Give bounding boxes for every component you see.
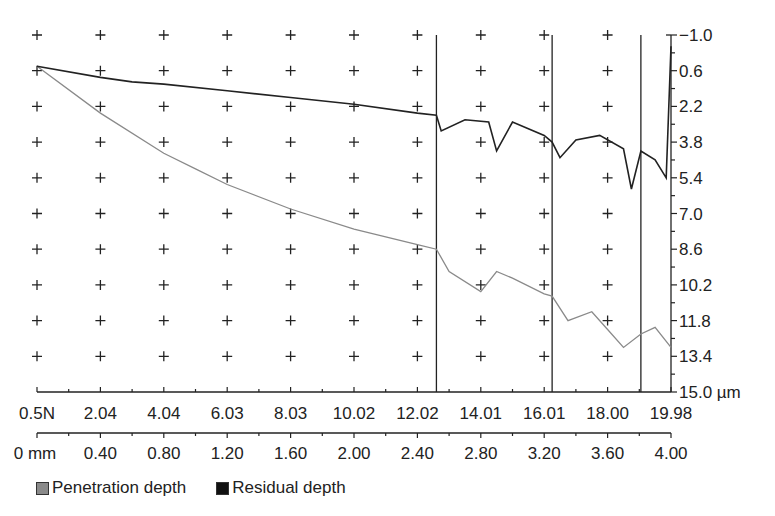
y-tick-label: 2.2: [679, 97, 703, 116]
y-tick-label: 8.6: [679, 240, 703, 259]
x-distance-tick-label: 3.20: [528, 444, 561, 463]
x-distance-tick-label: 0 mm: [14, 444, 57, 463]
y-tick-label: 15.0 µm: [679, 383, 741, 402]
x-distance-tick-label: 4.00: [654, 444, 687, 463]
x-load-tick-label: 4.04: [147, 404, 180, 423]
x-distance-tick-label: 2.00: [337, 444, 370, 463]
legend: Penetration depth Residual depth: [36, 478, 346, 498]
x-distance-tick-label: 3.60: [591, 444, 624, 463]
legend-item-penetration: Penetration depth: [36, 478, 186, 498]
x-load-tick-label: 12.02: [396, 404, 439, 423]
x-distance-tick-label: 1.20: [211, 444, 244, 463]
legend-item-residual: Residual depth: [216, 478, 345, 498]
y-tick-label: −1.0: [679, 26, 713, 45]
legend-swatch-icon: [36, 482, 49, 495]
x-load-tick-label: 2.04: [84, 404, 117, 423]
y-tick-label: 0.6: [679, 62, 703, 81]
x-distance-tick-label: 0.40: [84, 444, 117, 463]
x-distance-tick-label: 1.60: [274, 444, 307, 463]
x-load-tick-label: 0.5N: [19, 404, 55, 423]
x-load-tick-label: 6.03: [211, 404, 244, 423]
legend-label: Penetration depth: [52, 478, 186, 498]
x-load-tick-label: 16.01: [523, 404, 566, 423]
y-tick-label: 7.0: [679, 205, 703, 224]
y-tick-label: 5.4: [679, 169, 703, 188]
y-tick-label: 11.8: [679, 312, 711, 331]
legend-swatch-icon: [216, 482, 229, 495]
legend-label: Residual depth: [232, 478, 345, 498]
x-load-tick-label: 8.03: [274, 404, 307, 423]
x-load-tick-label: 10.02: [333, 404, 376, 423]
x-distance-tick-label: 2.80: [464, 444, 497, 463]
x-load-tick-label: 14.01: [460, 404, 503, 423]
y-tick-label: 3.8: [679, 133, 703, 152]
x-load-tick-label: 19.98: [650, 404, 693, 423]
x-distance-tick-label: 0.80: [147, 444, 180, 463]
y-tick-label: 10.2: [679, 276, 712, 295]
x-load-tick-label: 18.00: [586, 404, 629, 423]
y-tick-label: 13.4: [679, 347, 712, 366]
x-axis-distance: 0 mm0.400.801.201.602.002.402.803.203.60…: [14, 433, 688, 463]
x-distance-tick-label: 2.40: [401, 444, 434, 463]
x-axis-load: 0.5N2.044.046.038.0310.0212.0214.0116.01…: [19, 387, 692, 423]
scratch-test-chart: −1.00.62.23.85.47.08.610.211.813.415.0 µ…: [0, 0, 775, 516]
y-axis: −1.00.62.23.85.47.08.610.211.813.415.0 µ…: [666, 26, 741, 402]
